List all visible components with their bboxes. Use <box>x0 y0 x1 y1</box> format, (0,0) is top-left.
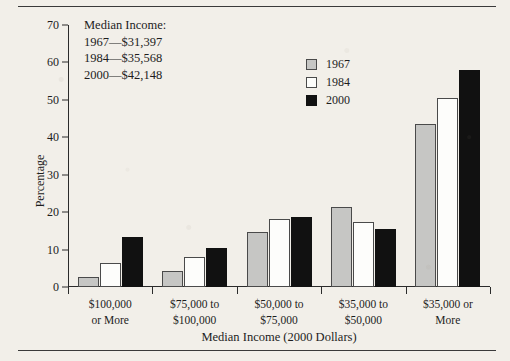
bottom-rule <box>18 350 496 351</box>
y-axis-tick-label: 40 <box>47 131 59 143</box>
y-axis-tick-label: 70 <box>47 19 59 31</box>
bar-groups: $100,000or More$75,000 to$100,000$50,000… <box>68 25 490 287</box>
x-axis-tick <box>152 287 153 294</box>
bar-group: $35,000 to$50,000 <box>321 25 405 287</box>
bar-2000 <box>375 229 396 287</box>
bar-group: $35,000 orMore <box>406 25 490 287</box>
bar-2000 <box>291 217 312 287</box>
x-axis-title: Median Income (2000 Dollars) <box>68 330 490 345</box>
bar-2000 <box>459 70 480 287</box>
y-axis-tick-label: 30 <box>47 169 59 181</box>
y-axis-tick-label: 0 <box>53 281 59 293</box>
bar-chart-figure: Percentage Median Income: 1967—$31,397 1… <box>0 0 510 361</box>
y-axis-tick-label: 20 <box>47 206 59 218</box>
x-axis-category-line: $35,000 or <box>398 297 498 313</box>
x-axis-tick <box>321 287 322 294</box>
x-axis-category-line: More <box>398 313 498 329</box>
x-axis-category-label: $35,000 orMore <box>398 297 498 328</box>
bar-1984 <box>184 257 205 287</box>
bar-1967 <box>415 124 436 287</box>
bar-1984 <box>269 219 290 287</box>
bar-group: $75,000 to$100,000 <box>152 25 236 287</box>
bar-1967 <box>162 271 183 287</box>
bar-1967 <box>78 277 99 287</box>
bar-group: $100,000or More <box>68 25 152 287</box>
y-axis-tick-label: 50 <box>47 94 59 106</box>
bar-2000 <box>122 237 143 287</box>
bar-group: $50,000 to$75,000 <box>237 25 321 287</box>
plot-area: 706050403020100 $100,000or More$75,000 t… <box>68 25 490 287</box>
y-axis-tick-label: 10 <box>47 244 59 256</box>
bar-1967 <box>331 207 352 287</box>
x-axis-tick <box>237 287 238 294</box>
bar-1984 <box>353 222 374 288</box>
bar-2000 <box>206 248 227 287</box>
top-rule <box>18 6 496 7</box>
bar-1984 <box>100 263 121 287</box>
x-axis-tick <box>406 287 407 294</box>
x-axis-tick <box>490 287 491 294</box>
y-axis-title: Percentage <box>33 154 48 207</box>
x-axis-tick <box>68 287 69 294</box>
bar-1984 <box>437 98 458 287</box>
y-axis-tick-label: 60 <box>47 56 59 68</box>
bar-1967 <box>247 232 268 287</box>
